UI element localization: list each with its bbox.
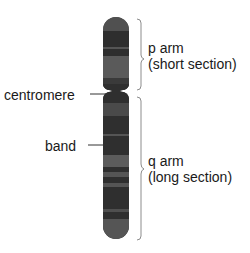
q-arm-sublabel: (long section)	[148, 169, 232, 185]
band-label: band	[45, 138, 76, 154]
centromere-label: centromere	[4, 87, 75, 103]
p-arm-sublabel: (short section)	[148, 56, 237, 72]
q-arm-label: q arm	[148, 153, 184, 169]
chromosome-diagram	[0, 0, 250, 253]
p-arm-bracket	[137, 19, 144, 90]
p-arm	[103, 15, 129, 91]
q-arm	[103, 90, 129, 242]
q-arm-bracket	[137, 97, 144, 240]
p-arm-label: p arm	[148, 40, 184, 56]
